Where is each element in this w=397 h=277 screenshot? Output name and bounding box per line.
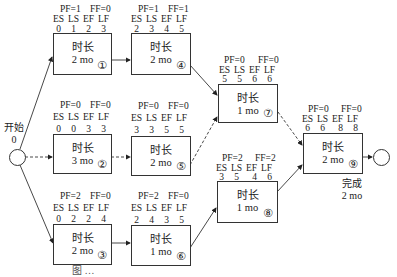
node-box: 时长 1 mo ⑧: [217, 181, 278, 223]
node-box: 时长 2 mo ⑤: [131, 136, 191, 176]
edge-5-7: [190, 117, 217, 165]
hdr-lf: LF: [174, 203, 189, 213]
node-number: ⑧: [263, 209, 273, 219]
hdr-lf: LF: [174, 113, 189, 123]
hdr-es: ES: [129, 113, 144, 123]
pf-value: PF=0: [60, 100, 81, 110]
duration-label: 时长: [54, 41, 111, 53]
hdr-es: ES: [129, 203, 144, 213]
hdr-ls: LS: [144, 113, 159, 123]
es-value: 6: [300, 123, 315, 133]
ef-value: 5: [159, 125, 174, 135]
es-value: 2: [129, 215, 144, 225]
lf-value: 4: [96, 214, 111, 224]
hdr-ef: EF: [159, 113, 174, 123]
edge-8-9: [277, 165, 302, 192]
ff-value: FF=2: [255, 153, 276, 163]
duration-label: 时长: [54, 232, 111, 244]
pf-value: PF=0: [224, 55, 245, 65]
duration-label: 时长: [304, 141, 362, 153]
hdr-lf: LF: [96, 112, 111, 122]
pf-value: PF=0: [138, 101, 159, 111]
pf-value: PF=0: [308, 104, 329, 114]
ls-value: 6: [315, 123, 330, 133]
node-box: 时长 3 mo ②: [53, 134, 112, 174]
es-value: 5: [217, 74, 232, 84]
figure-caption: 图 …: [72, 262, 95, 277]
pf-value: PF=1: [60, 4, 81, 14]
hdr-lf: LF: [96, 203, 111, 213]
hdr-lf: LF: [174, 14, 189, 24]
pf-value: PF=2: [138, 191, 159, 201]
hdr-ls: LS: [66, 203, 81, 213]
hdr-es: ES: [51, 203, 66, 213]
hdr-ls: LS: [144, 14, 159, 24]
node-box: 时长 1 mo ⑦: [218, 84, 278, 123]
hdr-es: ES: [51, 14, 66, 24]
node-number: ⑦: [263, 109, 273, 119]
start-value: 0: [0, 134, 29, 145]
hdr-lf: LF: [96, 14, 111, 24]
node-number: ⑨: [348, 160, 358, 170]
hdr-ef: EF: [159, 14, 174, 24]
node-number: ⑤: [176, 162, 186, 172]
ff-value: FF=0: [168, 101, 189, 111]
ff-value: FF=0: [168, 191, 189, 201]
node-number: ⑥: [176, 252, 186, 262]
ef-value: 8: [333, 123, 348, 133]
ff-value: FF=0: [341, 104, 362, 114]
duration-label: 时长: [132, 233, 190, 245]
hdr-es: ES: [51, 112, 66, 122]
ef-value: 6: [247, 74, 262, 84]
duration-label: 时长: [219, 92, 277, 104]
ls-value: 4: [144, 215, 159, 225]
pf-value: PF=1: [138, 4, 159, 14]
ff-value: FF=0: [90, 4, 111, 14]
edge-4-7: [190, 65, 217, 95]
lf-value: 5: [174, 125, 189, 135]
start-node: [9, 149, 26, 166]
start-label: 开始: [0, 122, 29, 133]
duration-label: 时长: [132, 144, 190, 156]
hdr-es: ES: [129, 14, 144, 24]
lf-value: 5: [174, 215, 189, 225]
lf-value: 3: [96, 124, 111, 134]
ls-value: 5: [232, 74, 247, 84]
node-box: 时长 1 mo ⑥: [131, 225, 191, 266]
ef-value: 3: [159, 215, 174, 225]
ff-value: FF=0: [90, 191, 111, 201]
node-box: 时长 2 mo ④: [131, 33, 191, 75]
finish-node: [373, 149, 390, 166]
ls-value: 2: [66, 214, 81, 224]
ff-value: FF=0: [258, 55, 279, 65]
ef-value: 2: [81, 214, 96, 224]
node-number: ③: [97, 251, 107, 261]
hdr-ef: EF: [81, 14, 96, 24]
ls-value: 0: [66, 124, 81, 134]
finish-label: 完成: [337, 178, 367, 189]
pf-value: PF=2: [222, 153, 243, 163]
edge-start-3: [20, 165, 53, 243]
hdr-ef: EF: [81, 112, 96, 122]
node-number: ④: [176, 61, 186, 71]
duration-label: 时长: [218, 189, 277, 201]
lf-value: 6: [262, 74, 277, 84]
hdr-ef: EF: [159, 203, 174, 213]
hdr-ls: LS: [66, 112, 81, 122]
ef-value: 3: [81, 124, 96, 134]
node-box: 时长 2 mo ③: [53, 224, 112, 265]
node-number: ②: [97, 160, 107, 170]
node-box: 时长 2 mo ⑨: [303, 133, 363, 174]
node-box: 时长 2 mo ①: [53, 33, 112, 75]
ff-value: FF=0: [90, 100, 111, 110]
duration-label: 时长: [132, 41, 190, 53]
hdr-ls: LS: [66, 14, 81, 24]
es-value: 3: [129, 125, 144, 135]
node-number: ①: [97, 61, 107, 71]
hdr-ls: LS: [144, 203, 159, 213]
ls-value: 3: [144, 125, 159, 135]
hdr-ef: EF: [81, 203, 96, 213]
finish-value: 2 mo: [337, 190, 367, 201]
ff-value: FF=1: [168, 4, 189, 14]
